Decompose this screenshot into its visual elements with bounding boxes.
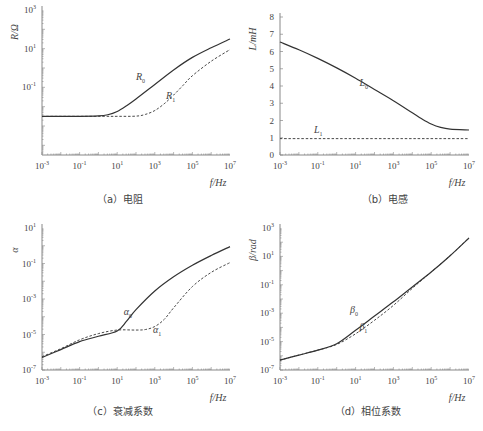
svg-text:3: 3 xyxy=(270,98,275,108)
svg-text:R1: R1 xyxy=(165,90,175,103)
series-α0 xyxy=(42,247,230,358)
caption-b: （b）电感 xyxy=(362,191,408,206)
svg-text:L0: L0 xyxy=(358,77,368,90)
x-axis-label: f/Hz xyxy=(449,392,466,403)
svg-text:10-3: 10-3 xyxy=(273,160,287,171)
svg-text:0: 0 xyxy=(270,150,275,160)
svg-text:1: 1 xyxy=(270,133,275,143)
chart-panel-d: 10-310-1101103105107f/Hz10-710-510-310-1… xyxy=(247,222,475,403)
svg-text:6: 6 xyxy=(270,47,275,57)
svg-text:β0: β0 xyxy=(349,304,358,317)
svg-text:103: 103 xyxy=(387,160,399,171)
svg-text:101: 101 xyxy=(111,375,123,386)
svg-text:107: 107 xyxy=(463,160,475,171)
svg-text:101: 101 xyxy=(24,222,36,233)
series-L0 xyxy=(280,42,469,130)
y-axis-label: R/Ω xyxy=(9,24,20,41)
svg-text:103: 103 xyxy=(149,375,161,386)
svg-text:4: 4 xyxy=(270,81,275,91)
svg-text:101: 101 xyxy=(350,160,362,171)
caption-d: （d）相位系数 xyxy=(335,403,401,418)
svg-text:α1: α1 xyxy=(153,324,161,337)
y-axis-label: L/mH xyxy=(247,27,258,52)
svg-text:10-1: 10-1 xyxy=(22,81,36,92)
svg-text:101: 101 xyxy=(262,250,274,261)
caption-c: （c）衰减系数 xyxy=(87,403,153,418)
svg-text:101: 101 xyxy=(111,160,123,171)
svg-text:5: 5 xyxy=(270,64,275,74)
chart-panel-a: 10-310-1101103105107f/Hz10-1101103R/ΩR0R… xyxy=(9,4,236,188)
chart-panel-c: 10-310-1101103105107f/Hz10-710-510-310-1… xyxy=(9,222,236,403)
svg-text:α0: α0 xyxy=(124,306,132,319)
svg-text:8: 8 xyxy=(270,12,275,22)
svg-text:105: 105 xyxy=(425,160,437,171)
svg-text:107: 107 xyxy=(463,375,475,386)
svg-text:101: 101 xyxy=(350,375,362,386)
svg-text:10-5: 10-5 xyxy=(260,336,274,347)
plot-canvas: 10-310-1101103105107f/Hz10-1101103R/ΩR0R… xyxy=(0,0,483,431)
svg-text:L1: L1 xyxy=(313,124,323,137)
svg-text:10-1: 10-1 xyxy=(311,160,325,171)
svg-text:107: 107 xyxy=(224,375,236,386)
svg-text:103: 103 xyxy=(387,375,399,386)
svg-text:103: 103 xyxy=(24,4,36,15)
svg-text:10-1: 10-1 xyxy=(22,258,36,269)
svg-text:103: 103 xyxy=(149,160,161,171)
svg-text:7: 7 xyxy=(270,29,275,39)
svg-text:10-3: 10-3 xyxy=(273,375,287,386)
y-axis-label: α xyxy=(9,247,20,253)
series-R1 xyxy=(42,50,230,117)
svg-text:10-5: 10-5 xyxy=(22,329,36,340)
svg-text:10-1: 10-1 xyxy=(311,375,325,386)
series-β1 xyxy=(280,238,469,360)
svg-text:103: 103 xyxy=(262,222,274,233)
svg-text:10-3: 10-3 xyxy=(35,160,49,171)
series-β0 xyxy=(280,238,469,360)
svg-text:105: 105 xyxy=(186,160,198,171)
svg-text:R0: R0 xyxy=(135,71,145,84)
chart-panel-b: 10-310-1101103105107f/Hz012345678L/mHL0L… xyxy=(247,12,475,188)
x-axis-label: f/Hz xyxy=(210,392,227,403)
svg-text:10-1: 10-1 xyxy=(73,375,87,386)
x-axis-label: f/Hz xyxy=(210,177,227,188)
figure: 10-310-1101103105107f/Hz10-1101103R/ΩR0R… xyxy=(0,0,483,431)
svg-text:10-3: 10-3 xyxy=(35,375,49,386)
svg-text:10-7: 10-7 xyxy=(22,364,36,375)
y-axis-label: β/rad xyxy=(247,238,258,262)
svg-text:105: 105 xyxy=(186,375,198,386)
svg-text:2: 2 xyxy=(270,116,275,126)
svg-text:10-3: 10-3 xyxy=(22,293,36,304)
svg-text:10-3: 10-3 xyxy=(260,307,274,318)
x-axis-label: f/Hz xyxy=(449,177,466,188)
svg-text:107: 107 xyxy=(224,160,236,171)
svg-text:10-7: 10-7 xyxy=(260,364,274,375)
svg-text:101: 101 xyxy=(24,43,36,54)
svg-text:105: 105 xyxy=(425,375,437,386)
caption-a: （a）电阻 xyxy=(97,191,143,206)
svg-text:10-1: 10-1 xyxy=(260,279,274,290)
svg-text:10-1: 10-1 xyxy=(73,160,87,171)
